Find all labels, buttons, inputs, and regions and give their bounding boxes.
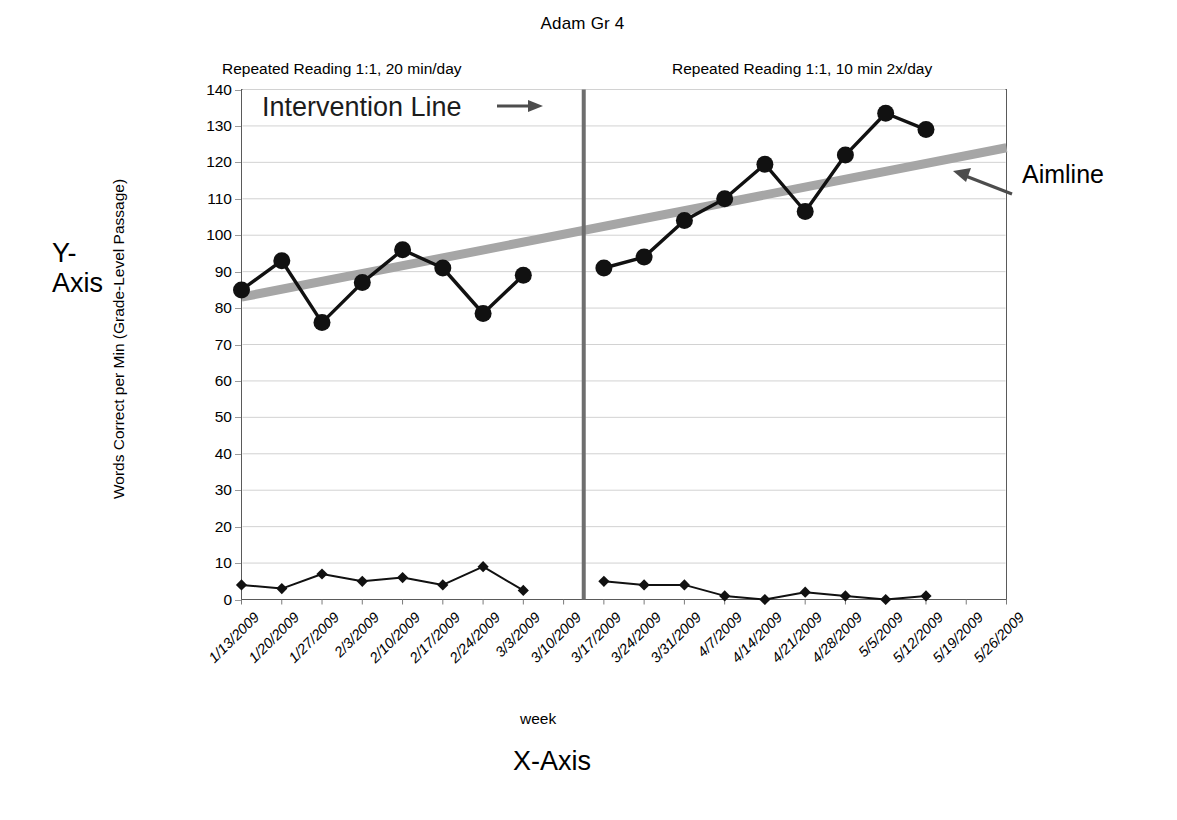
annotation-y-axis-line1: Y- (52, 238, 162, 268)
data-point-marker (636, 249, 653, 266)
data-point-marker (797, 203, 814, 220)
data-point-marker (920, 590, 931, 601)
annotation-y-axis-line2: Axis (52, 268, 162, 298)
data-point-marker (877, 105, 894, 122)
data-point-marker (759, 594, 770, 605)
x-axis-ticks (242, 600, 1007, 605)
data-point-marker (918, 121, 935, 138)
data-point-marker (518, 585, 529, 596)
data-point-marker (273, 252, 290, 269)
data-point-marker (434, 260, 451, 277)
chart-figure: Adam Gr 4 Repeated Reading 1:1, 20 min/d… (0, 0, 1177, 820)
data-point-marker (756, 156, 773, 173)
data-point-marker (354, 274, 371, 291)
annotation-intervention-line: Intervention Line (262, 92, 462, 123)
data-point-marker (840, 590, 851, 601)
aimline-arrow-icon (953, 168, 1012, 194)
data-point-marker (437, 579, 448, 590)
data-point-marker (475, 305, 492, 322)
data-point-marker (800, 587, 811, 598)
data-point-marker (716, 190, 733, 207)
x-axis-title: week (520, 710, 556, 728)
intervention-arrow-icon (497, 100, 543, 112)
data-point-marker (357, 576, 368, 587)
data-point-marker (394, 241, 411, 258)
data-point-marker (316, 568, 327, 579)
arrow-head (953, 168, 971, 182)
annotation-x-axis: X-Axis (513, 746, 591, 777)
arrow-head (528, 100, 543, 112)
data-point-marker (676, 212, 693, 229)
annotation-aimline: Aimline (1022, 160, 1104, 189)
data-point-marker (236, 579, 247, 590)
y-axis-title: Words Correct per Min (Grade-Level Passa… (110, 124, 128, 554)
arrow-shaft (963, 175, 1012, 194)
data-point-marker (639, 579, 650, 590)
data-point-marker (595, 260, 612, 277)
annotation-y-axis: Y- Axis (52, 238, 162, 298)
data-point-marker (233, 281, 250, 298)
data-point-marker (598, 576, 609, 587)
plot-canvas (0, 0, 1177, 820)
data-point-marker (314, 314, 331, 331)
data-point-marker (719, 590, 730, 601)
gridlines (243, 90, 1006, 564)
data-point-marker (276, 583, 287, 594)
data-point-marker (880, 594, 891, 605)
data-point-marker (515, 267, 532, 284)
data-point-marker (679, 579, 690, 590)
data-point-marker (837, 147, 854, 164)
aimline-trend (242, 148, 1007, 297)
data-point-marker (397, 572, 408, 583)
